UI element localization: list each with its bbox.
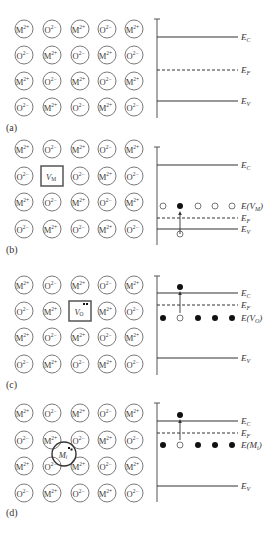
cation-M2plus: M2+: [125, 20, 143, 38]
panel-c: M2+O2−M2+O2−M2+O2−M2+VOM2+O2−M2+O2−M2+O2…: [6, 276, 262, 391]
anion-O2minus: O2−: [71, 220, 89, 238]
conduction-band-edge-label: EC: [240, 32, 252, 43]
defect-level-label: E(VM): [240, 201, 263, 212]
anion-O2minus: O2−: [43, 404, 61, 422]
panel-label: (a): [6, 122, 17, 134]
cation-M2plus: M2+: [125, 72, 143, 90]
filled-state-dot: [212, 442, 218, 448]
cation-M2plus: M2+: [15, 193, 33, 211]
cation-M2plus: M2+: [125, 140, 143, 158]
fermi-level-label: EF: [240, 428, 251, 439]
band-diagram-c: ECEFEVE(VO): [154, 276, 262, 375]
excited-electron-dot: [177, 284, 183, 290]
valence-band-edge-label: EV: [240, 481, 252, 492]
anion-O2minus: O2−: [71, 355, 89, 373]
cation-M2plus: M2+: [71, 328, 89, 346]
cation-M2plus: M2+: [43, 431, 61, 449]
lattice-d: M2+O2−M2+O2−M2+O2−M2+O2−M2+O2−M2+O2−M2+O…: [15, 404, 143, 502]
cation-M2plus: M2+: [15, 72, 33, 90]
anion-O2minus: O2−: [98, 140, 116, 158]
panel-b: M2+O2−M2+O2−M2+O2−VMO2−M2+O2−M2+O2−M2+O2…: [6, 140, 263, 256]
anion-O2minus: O2−: [43, 193, 61, 211]
anion-O2minus: O2−: [15, 220, 33, 238]
anion-O2minus: O2−: [43, 328, 61, 346]
panel-label: (d): [6, 507, 18, 519]
empty-state-dot: [160, 203, 166, 209]
cation-M2plus: M2+: [71, 193, 89, 211]
anion-O2minus: O2−: [98, 193, 116, 211]
cation-M2plus: M2+: [43, 302, 61, 320]
filled-state-dot: [229, 315, 235, 321]
interstitial-Mi: Mi: [52, 442, 76, 466]
anion-O2minus: O2−: [125, 431, 143, 449]
excited-electron-dot: [177, 412, 183, 418]
interstitial-label: Mi: [58, 450, 68, 460]
conduction-band-edge-label: EC: [240, 416, 252, 427]
cation-M2plus: M2+: [125, 276, 143, 294]
empty-state-dot: [212, 203, 218, 209]
empty-state-dot: [195, 203, 201, 209]
cation-M2plus: M2+: [43, 98, 61, 116]
anion-O2minus: O2−: [98, 457, 116, 475]
point-defects-band-diagram: M2+O2−M2+O2−M2+O2−M2+O2−M2+O2−M2+O2−M2+O…: [0, 0, 279, 539]
anion-O2minus: O2−: [98, 328, 116, 346]
cation-M2plus: M2+: [15, 140, 33, 158]
anion-O2minus: O2−: [71, 98, 89, 116]
anion-O2minus: O2−: [43, 140, 61, 158]
anion-O2minus: O2−: [43, 276, 61, 294]
cation-M2plus: M2+: [98, 355, 116, 373]
cation-M2plus: M2+: [15, 20, 33, 38]
charge-dot: [68, 447, 70, 449]
filled-state-dot: [229, 442, 235, 448]
anion-O2minus: O2−: [125, 484, 143, 502]
anion-O2minus: O2−: [43, 20, 61, 38]
fermi-level-label: EF: [240, 65, 251, 76]
cation-M2plus: M2+: [71, 276, 89, 294]
anion-O2minus: O2−: [98, 276, 116, 294]
anion-O2minus: O2−: [98, 72, 116, 90]
lattice-c: M2+O2−M2+O2−M2+O2−M2+VOM2+O2−M2+O2−M2+O2…: [15, 276, 143, 373]
empty-state-dot: [177, 442, 183, 448]
panel-label: (b): [6, 244, 18, 256]
anion-O2minus: O2−: [43, 72, 61, 90]
anion-O2minus: O2−: [15, 431, 33, 449]
vacancy-VO: VO: [69, 301, 91, 321]
anion-O2minus: O2−: [15, 484, 33, 502]
cation-M2plus: M2+: [71, 72, 89, 90]
vacancy-VM: VM: [41, 166, 63, 186]
fermi-level-label: EF: [240, 300, 251, 311]
anion-O2minus: O2−: [15, 98, 33, 116]
valence-band-edge-label: EV: [240, 353, 252, 364]
fermi-level-label: EF: [240, 213, 251, 224]
arrowhead-icon: [178, 211, 182, 215]
cation-M2plus: M2+: [125, 328, 143, 346]
panel-d: M2+O2−M2+O2−M2+O2−M2+O2−M2+O2−M2+O2−M2+O…: [6, 403, 262, 519]
cation-M2plus: M2+: [98, 167, 116, 185]
empty-state-dot: [177, 315, 183, 321]
band-diagram-b: ECEFEVE(VM): [154, 147, 263, 245]
cation-M2plus: M2+: [71, 457, 89, 475]
lattice-b: M2+O2−M2+O2−M2+O2−VMO2−M2+O2−M2+O2−M2+O2…: [15, 140, 143, 238]
anion-O2minus: O2−: [15, 355, 33, 373]
band-diagram-a: ECEFEV: [154, 19, 252, 118]
anion-O2minus: O2−: [125, 220, 143, 238]
cation-M2plus: M2+: [125, 404, 143, 422]
defect-level-label: E(Mi): [240, 440, 262, 451]
defect-level-label: E(VO): [240, 313, 262, 324]
anion-O2minus: O2−: [125, 167, 143, 185]
valence-band-edge-label: EV: [240, 224, 252, 235]
cation-M2plus: M2+: [125, 457, 143, 475]
anion-O2minus: O2−: [125, 46, 143, 64]
anion-O2minus: O2−: [71, 46, 89, 64]
lattice-a: M2+O2−M2+O2−M2+O2−M2+O2−M2+O2−M2+O2−M2+O…: [15, 20, 143, 116]
anion-O2minus: O2−: [15, 302, 33, 320]
cation-M2plus: M2+: [43, 355, 61, 373]
filled-state-dot: [195, 442, 201, 448]
empty-state-dot: [229, 203, 235, 209]
anion-O2minus: O2−: [125, 355, 143, 373]
cation-M2plus: M2+: [125, 193, 143, 211]
charge-dot: [86, 303, 88, 305]
band-diagram-d: ECEFEVE(Mi): [154, 403, 262, 502]
anion-O2minus: O2−: [15, 46, 33, 64]
cation-M2plus: M2+: [98, 302, 116, 320]
